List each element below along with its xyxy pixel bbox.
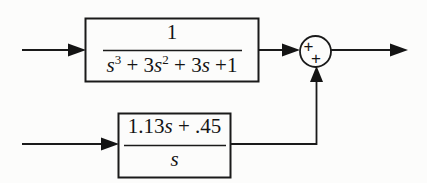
arrowhead-input-bottom	[101, 138, 119, 151]
block-diagram-canvas: 1 s3 + 3s2 + 3s +1 1.13s + .45 s + +	[0, 0, 427, 183]
denominator-op-2: + 3	[169, 53, 202, 77]
block-feedforward-compensator-denominator: s	[118, 149, 231, 170]
denominator-const: +1	[210, 53, 238, 77]
block-forward-plant-denominator: s3 + 3s2 + 3s +1	[85, 53, 259, 76]
arrowhead-plant-to-summer	[282, 44, 300, 57]
block-forward-plant-numerator: 1	[85, 22, 259, 43]
arrowhead-compensator-to-summer	[310, 66, 323, 82]
block-feedforward-compensator-numerator: 1.13s + .45	[118, 116, 231, 137]
signal-compensator-to-summer	[231, 66, 323, 144]
arrowhead-input-top	[68, 44, 86, 57]
numerator-term-s: s	[164, 114, 172, 138]
denominator-term-s3: s	[202, 53, 210, 77]
summing-junction-sign-lower: +	[311, 50, 321, 67]
signal-input-bottom	[22, 138, 119, 151]
signal-output	[331, 44, 408, 57]
denominator-term-s1: s	[107, 53, 115, 77]
signal-plant-to-summer	[259, 44, 300, 57]
numerator-constant: + .45	[173, 114, 222, 138]
numerator-coefficient: 1.13	[128, 114, 165, 138]
arrowhead-output	[390, 44, 408, 57]
signal-input-top	[22, 44, 86, 57]
denominator-op-1: + 3	[121, 53, 154, 77]
